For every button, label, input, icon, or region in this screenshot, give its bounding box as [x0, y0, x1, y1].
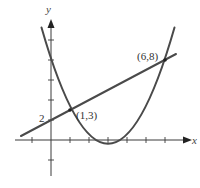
y-tick-label-2: 2: [39, 112, 45, 124]
graph-figure: y x 2 (1,3) (6,8): [0, 0, 200, 188]
point-1-3: [68, 108, 72, 112]
x-axis-arrow-icon: [183, 137, 192, 144]
x-axis-label: x: [191, 134, 197, 146]
y-axis-label: y: [45, 3, 51, 15]
point-6-8: [163, 58, 167, 62]
parabola-curve: [42, 28, 175, 144]
y-axis-arrow-icon: [48, 19, 55, 28]
point-6-8-label: (6,8): [137, 50, 158, 63]
point-1-3-label: (1,3): [76, 109, 97, 122]
